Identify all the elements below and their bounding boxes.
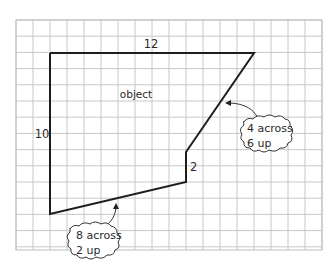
top-dimension-label: 12 <box>144 37 159 51</box>
object-label: object <box>120 88 152 100</box>
grid-diagram: 12 object 10 2 4 across 6 up 8 across 2 … <box>0 0 333 280</box>
callout-text-line2: 2 up <box>76 244 100 257</box>
callout-text-line1: 8 across <box>76 229 122 242</box>
left-dimension-label: 10 <box>35 127 50 141</box>
callout-upper-slope: 4 across 6 up <box>228 103 293 152</box>
callout-text-line2: 6 up <box>247 137 271 150</box>
short-vertical-dimension-label: 2 <box>190 160 197 174</box>
callout-text-line1: 4 across <box>247 122 293 135</box>
